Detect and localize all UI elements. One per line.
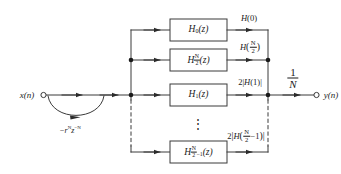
branch-1-fn: H (241, 13, 247, 23)
feedback-gain-label: −rNz−N (59, 127, 81, 135)
block-3-arg: (z) (198, 89, 208, 99)
branch-1-output-label: H(0) (241, 14, 257, 23)
feedback-exponent-2: −N (74, 125, 80, 130)
feedback-prefix: −r (59, 126, 68, 135)
branch-2-output-label: H(N2) (240, 40, 260, 55)
junction-dot-left-lower (129, 93, 134, 98)
junction-dot-right-upper (266, 58, 271, 63)
feedback-arrow-head (70, 116, 81, 120)
block-3-base: H (189, 89, 196, 99)
input-terminal-node[interactable] (41, 92, 46, 97)
block-4-arg: (z) (203, 147, 213, 157)
filter-block-1-label: H0(z) (189, 25, 209, 35)
block-1-base: H (189, 24, 196, 34)
junction-dot-left-upper (129, 58, 134, 63)
branch-3-prefix: 2 (238, 77, 242, 87)
input-label: x(n) (20, 91, 35, 100)
block-1-arg: (z) (198, 24, 208, 34)
gain-denominator: N (287, 79, 298, 90)
branch-2-arg-fraction: N2 (250, 40, 257, 55)
branch-3-fn: H (244, 77, 250, 87)
block-4-base: H (184, 147, 191, 157)
vertical-ellipsis: ⋮ (192, 117, 204, 132)
block-2-arg: (z) (200, 55, 210, 65)
branch-3-arg: 1 (253, 77, 257, 87)
junction-dot-right-lower (266, 93, 271, 98)
figure-canvas: x(n) y(n) −rNz−N H0(z) HN2(z) H1(z) HN2−… (0, 0, 341, 174)
branch-4-arg-fraction: N2 (243, 129, 250, 144)
filter-block-3-label: H1(z) (189, 90, 209, 100)
output-label: y(n) (324, 91, 339, 100)
filter-block-4-label: HN2−1(z) (184, 146, 212, 159)
branch-3-output-label: 2|H(1)| (238, 78, 262, 87)
branch-4-output-label: 2|H(N2−1)| (227, 129, 264, 144)
block-2-base: H (187, 55, 194, 65)
filter-block-2-label: HN2(z) (187, 54, 209, 67)
output-terminal-node[interactable] (314, 92, 319, 97)
branch-1-arg: 0 (250, 13, 254, 23)
feedback-arc (48, 96, 104, 116)
output-gain-label: 1N (287, 67, 298, 90)
